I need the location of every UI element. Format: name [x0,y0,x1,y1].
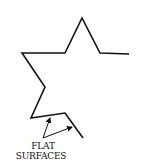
arrow-to-flat-surface-1 [43,118,50,138]
star-outline [22,18,129,138]
arrow-to-flat-surface-2 [43,127,72,138]
star-edge-diagram [0,0,142,163]
label-flat: FLAT [22,141,64,151]
label-surfaces: SURFACES [6,151,76,161]
